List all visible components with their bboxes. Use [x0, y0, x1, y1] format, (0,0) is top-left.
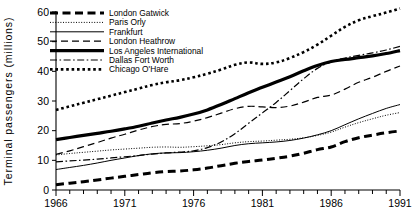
series-line [56, 66, 400, 154]
x-axis-ticks: 196619711976198119861991 [44, 190, 412, 209]
legend-label: Chicago O'Hare [109, 64, 169, 74]
y-axis-title: Terminal passengers (millions) [2, 17, 14, 186]
chart-container: 0102030405060196619711976198119861991Ter… [0, 0, 415, 221]
series-line [56, 46, 400, 161]
y-tick-label: 10 [37, 154, 49, 166]
series-group [56, 8, 400, 184]
y-tick-label: 50 [37, 35, 49, 47]
series-line [56, 105, 400, 170]
x-tick-label: 1966 [44, 197, 68, 209]
x-tick-label: 1971 [113, 197, 137, 209]
y-tick-label: 0 [43, 184, 49, 196]
x-tick-label: 1981 [251, 197, 275, 209]
y-tick-label: 20 [37, 124, 49, 136]
y-tick-label: 60 [37, 6, 49, 18]
y-axis-ticks: 0102030405060 [37, 6, 56, 196]
y-tick-label: 30 [37, 95, 49, 107]
x-tick-label: 1986 [320, 197, 344, 209]
line-chart: 0102030405060196619711976198119861991Ter… [0, 0, 415, 221]
x-tick-label: 1991 [388, 197, 412, 209]
legend: London GatwickParis OrlyFrankfurtLondon … [50, 8, 203, 74]
series-line [56, 113, 400, 155]
y-tick-label: 40 [37, 65, 49, 77]
x-tick-label: 1976 [182, 197, 206, 209]
